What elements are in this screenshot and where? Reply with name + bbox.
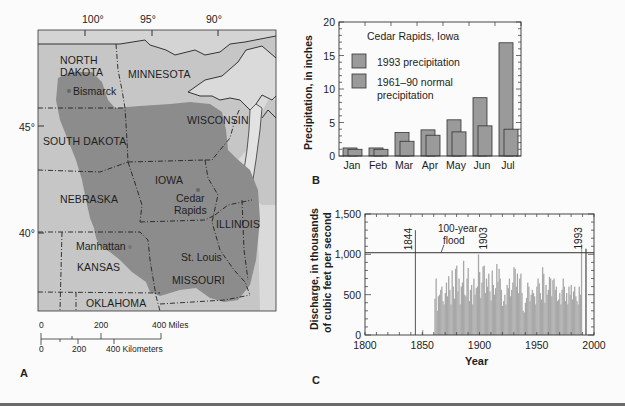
chart-c-xlabel: Year <box>465 355 488 367</box>
chart-c-ylabel: of cubic feet per second <box>321 212 333 333</box>
svg-text:20: 20 <box>323 16 335 28</box>
svg-text:1844: 1844 <box>403 228 414 251</box>
bar-normal <box>374 149 388 156</box>
svg-text:1903: 1903 <box>478 227 489 250</box>
legend-swatch-1993 <box>352 54 366 68</box>
chart-b-title: Cedar Rapids, Iowa <box>367 30 459 42</box>
flood-annotation: 100-year <box>438 223 477 234</box>
bar-normal <box>452 132 466 156</box>
svg-text:5: 5 <box>329 117 335 129</box>
svg-text:Jul: Jul <box>501 159 514 171</box>
svg-text:Feb: Feb <box>369 159 387 171</box>
svg-text:Jan: Jan <box>344 159 361 171</box>
flood-annotation: flood <box>443 235 465 246</box>
svg-text:1900: 1900 <box>468 339 492 351</box>
bar-normal <box>348 149 362 156</box>
legend-label-1993: 1993 precipitation <box>377 56 460 68</box>
chart-b-ylabel: Precipitation, in inches <box>302 35 314 150</box>
bar-normal <box>400 141 414 156</box>
legend-label-normal: precipitation <box>377 89 434 101</box>
svg-text:500: 500 <box>343 289 361 301</box>
svg-text:1800: 1800 <box>353 339 377 351</box>
svg-text:2000: 2000 <box>582 339 606 351</box>
bar-normal <box>478 126 492 156</box>
svg-text:10: 10 <box>323 83 335 95</box>
svg-text:Mar: Mar <box>395 159 414 171</box>
panel-letter-c: C <box>312 374 320 386</box>
panel-letter-b: B <box>312 174 320 186</box>
svg-text:Apr: Apr <box>422 159 439 171</box>
legend-label-normal: 1961–90 normal <box>377 76 453 88</box>
bar-normal <box>504 129 518 156</box>
svg-text:1,000: 1,000 <box>335 248 361 260</box>
chart-c-ylabel: Discharge, in thousands <box>308 208 320 330</box>
svg-text:1993: 1993 <box>573 227 584 250</box>
panel-letter-a: A <box>20 367 28 379</box>
legend-swatch-normal <box>352 74 366 88</box>
svg-text:1850: 1850 <box>411 339 435 351</box>
svg-text:1,500: 1,500 <box>335 208 361 220</box>
svg-text:1950: 1950 <box>525 339 549 351</box>
svg-text:0: 0 <box>329 150 335 162</box>
svg-text:Jun: Jun <box>474 159 491 171</box>
bar-normal <box>426 135 440 156</box>
svg-text:15: 15 <box>323 50 335 62</box>
svg-text:May: May <box>446 159 467 171</box>
